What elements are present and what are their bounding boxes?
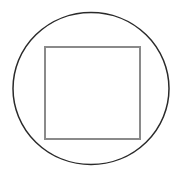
- diagram-canvas: [0, 0, 180, 170]
- background: [0, 0, 180, 170]
